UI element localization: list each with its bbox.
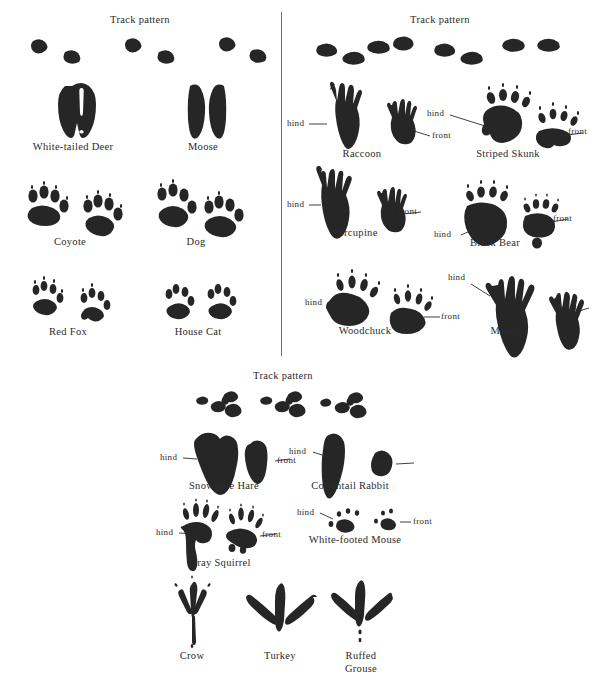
- species-label-porcupine: Porcupine: [332, 227, 377, 238]
- species-label-dog: Dog: [187, 236, 206, 247]
- species-label-house-cat: House Cat: [175, 326, 222, 337]
- track-muskrat-hind: [486, 276, 535, 358]
- part-label-porcupine-hind: hind: [287, 199, 304, 209]
- track-pattern-heading-right: Track pattern: [410, 14, 470, 25]
- species-label-cottontail-rabbit: Cottontail Rabbit: [311, 480, 389, 491]
- part-label-snowshoe-hare-front: front: [277, 455, 296, 465]
- part-label-cottontail-rabbit-front: front: [371, 457, 390, 467]
- species-label-black-bear: Black Bear: [470, 237, 520, 248]
- part-label-striped-skunk-front: front: [568, 126, 587, 136]
- species-label-striped-skunk: Striped Skunk: [476, 148, 540, 159]
- track-house-cat: [166, 284, 237, 319]
- species-label-moose: Moose: [188, 141, 218, 152]
- track-red-fox: [33, 276, 111, 322]
- track-striped-skunk-hind: [482, 83, 532, 143]
- species-label-woodchuck: Woodchuck: [339, 325, 392, 336]
- tracks-illustration: [0, 0, 593, 686]
- species-label-gray-squirrel: Gray Squirrel: [189, 557, 250, 568]
- track-identification-chart: Track pattern White-tailed Deer Moose Co…: [0, 0, 593, 686]
- track-dog: [157, 179, 243, 237]
- track-muskrat-front: [549, 292, 584, 350]
- part-label-raccoon-front: front: [432, 130, 451, 140]
- part-label-muskrat-front: front: [558, 302, 577, 312]
- part-label-muskrat-hind: hind: [448, 272, 465, 282]
- track-coyote: [28, 181, 123, 236]
- track-ruffed-grouse: [331, 580, 393, 642]
- track-gray-squirrel-front: [226, 504, 264, 554]
- part-label-porcupine-front: front: [398, 206, 417, 216]
- track-pattern-row-raccoon: [316, 36, 560, 64]
- part-label-black-bear-front: front: [553, 213, 572, 223]
- species-label-raccoon: Raccoon: [343, 148, 382, 159]
- track-moose: [188, 85, 227, 139]
- species-label-ruffed-grouse-line1: Ruffed: [346, 650, 377, 661]
- part-label-raccoon-hind: hind: [287, 118, 304, 128]
- part-label-black-bear-hind: hind: [434, 229, 451, 239]
- part-label-woodchuck-hind: hind: [305, 297, 322, 307]
- species-label-white-footed-mouse: White-footed Mouse: [309, 534, 402, 545]
- species-label-red-fox: Red Fox: [49, 326, 87, 337]
- species-label-muskrat: Muskrat: [490, 325, 527, 336]
- part-label-striped-skunk-hind: hind: [427, 108, 444, 118]
- part-label-cottontail-rabbit-hind: hind: [289, 446, 306, 456]
- track-pattern-row-hare: [196, 391, 366, 418]
- track-woodchuck-front: [390, 284, 433, 334]
- track-pattern-heading-left: Track pattern: [110, 14, 170, 25]
- track-white-tailed-deer: [58, 83, 96, 138]
- part-label-gray-squirrel-front: front: [262, 529, 281, 539]
- part-label-white-footed-mouse-hind: hind: [297, 507, 314, 517]
- species-label-turkey: Turkey: [264, 650, 296, 661]
- track-snowshoe-hare-front: [245, 440, 268, 484]
- species-label-crow: Crow: [180, 650, 205, 661]
- part-label-gray-squirrel-hind: hind: [156, 527, 173, 537]
- species-label-coyote: Coyote: [54, 236, 86, 247]
- part-label-snowshoe-hare-hind: hind: [160, 452, 177, 462]
- track-pattern-row-deer: [31, 37, 266, 64]
- track-white-footed-mouse-hind: [329, 508, 360, 533]
- part-label-white-footed-mouse-front: front: [413, 516, 432, 526]
- species-label-white-tailed-deer: White-tailed Deer: [33, 141, 114, 152]
- track-crow: [174, 576, 211, 649]
- species-label-ruffed-grouse-line2: Grouse: [345, 663, 377, 674]
- track-woodchuck-hind: [326, 269, 380, 326]
- species-label-snowshoe-hare: Snowshoe Hare: [189, 480, 259, 491]
- track-white-footed-mouse-front: [374, 508, 396, 530]
- track-turkey: [246, 583, 317, 631]
- track-pattern-heading-bottom: Track pattern: [253, 370, 313, 381]
- part-label-woodchuck-front: front: [441, 311, 460, 321]
- track-raccoon-hind: [330, 82, 362, 149]
- track-raccoon-front: [387, 99, 417, 144]
